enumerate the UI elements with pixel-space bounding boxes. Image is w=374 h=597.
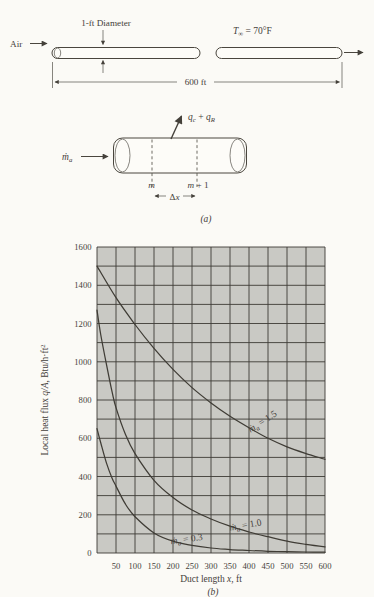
duct-diagram: Air 1-ft Diameter T∞ = 70°F 600 ft (10, 18, 363, 88)
heat-loss-label: qc + qR (188, 112, 216, 123)
x-tick-label: 600 (319, 561, 332, 571)
panel-a-label: (a) (200, 214, 211, 225)
y-axis-title: Local heat flux q/A, Btu/h·ft2 (39, 344, 50, 455)
y-tick-label: 200 (79, 510, 92, 520)
node-m-label: m (148, 180, 155, 190)
x-tick-label: 550 (300, 561, 313, 571)
length-label: 600 ft (185, 77, 207, 87)
y-tick-label: 1400 (74, 280, 91, 290)
x-tick-label: 250 (186, 561, 199, 571)
x-tick-label: 200 (167, 561, 180, 571)
ambient-temperature-label: T∞ = 70°F (233, 26, 272, 37)
y-tick-label: 600 (79, 433, 92, 443)
x-tick-label: 450 (262, 561, 275, 571)
heat-loss-arrow (171, 116, 182, 139)
y-tick-label: 400 (79, 472, 92, 482)
x-tick-label: 400 (243, 561, 256, 571)
y-tick-label: 1600 (74, 242, 91, 252)
panel-b-label: (b) (207, 587, 218, 597)
x-tick-label: 500 (281, 561, 294, 571)
x-tick-label: 300 (205, 561, 218, 571)
x-tick-label: 50 (112, 561, 121, 571)
y-tick-label: 1000 (74, 357, 91, 367)
duct-segment-left (52, 48, 200, 59)
heat-flux-chart: 5010015020025030035040045050055060002004… (74, 242, 331, 571)
element-diagram: ṁa m m + 1 Δx qc + qR (a) (62, 112, 247, 225)
x-tick-label: 100 (129, 561, 142, 571)
node-m1-label: m + 1 (187, 180, 208, 190)
textbook-figure-page: Air 1-ft Diameter T∞ = 70°F 600 ft ṁa m … (0, 0, 374, 597)
y-tick-label: 1200 (74, 319, 91, 329)
x-tick-label: 150 (148, 561, 161, 571)
air-label: Air (10, 39, 22, 49)
y-tick-label: 0 (87, 548, 91, 558)
mass-flow-label: ṁa (62, 152, 73, 163)
y-tick-label: 800 (79, 395, 92, 405)
x-tick-label: 350 (224, 561, 237, 571)
x-axis-title: Duct length x, ft (180, 574, 242, 584)
element-tube (114, 138, 247, 173)
delta-x-label: Δx (170, 192, 181, 202)
duct-segment-right (216, 48, 342, 59)
diameter-label: 1-ft Diameter (81, 18, 131, 28)
figure-svg: Air 1-ft Diameter T∞ = 70°F 600 ft ṁa m … (0, 0, 374, 597)
